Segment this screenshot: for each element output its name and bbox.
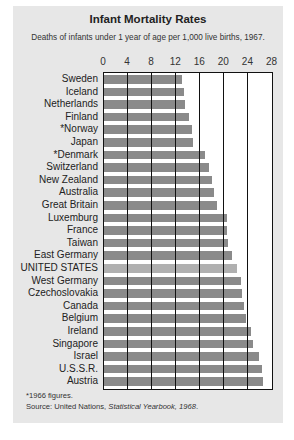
gridline xyxy=(247,73,249,389)
bar xyxy=(104,151,205,160)
gridline xyxy=(175,73,177,389)
category-label: East Germany xyxy=(34,248,98,261)
x-tick-label: 4 xyxy=(124,56,130,67)
category-label: Taiwan xyxy=(67,236,98,249)
category-label: Great Britain xyxy=(42,198,98,211)
category-label: New Zealand xyxy=(39,173,98,186)
category-label: Canada xyxy=(63,299,98,312)
footnote: *1966 figures. xyxy=(26,391,73,400)
category-label: Sweden xyxy=(62,72,98,85)
bar xyxy=(104,138,193,147)
plot-area xyxy=(103,72,273,390)
x-tick-label: 28 xyxy=(266,56,277,67)
category-label: Ireland xyxy=(67,324,98,337)
gridline xyxy=(199,73,201,389)
source-title: Statistical Yearbook, 1968 xyxy=(108,402,196,411)
chart-title: Infant Mortality Rates xyxy=(13,13,283,25)
category-label: *Norway xyxy=(60,122,98,135)
category-label: France xyxy=(67,223,98,236)
category-label: Belgium xyxy=(62,311,98,324)
category-label: Finland xyxy=(65,110,98,123)
category-label: Czechoslovakia xyxy=(28,286,98,299)
bar xyxy=(104,188,214,197)
gridline xyxy=(127,73,129,389)
bar xyxy=(104,176,212,185)
bar xyxy=(104,226,227,235)
bar xyxy=(104,289,242,298)
x-tick-label: 12 xyxy=(170,56,181,67)
bar xyxy=(104,277,241,286)
bar xyxy=(104,239,228,248)
bar xyxy=(104,214,227,223)
category-label: Singapore xyxy=(52,337,98,350)
category-label: Japan xyxy=(71,135,98,148)
category-label: Luxemburg xyxy=(48,211,98,224)
bar xyxy=(104,100,185,109)
category-label: Australia xyxy=(59,185,98,198)
source-prefix: Source: United Nations, xyxy=(26,402,108,411)
x-tick-label: 24 xyxy=(242,56,253,67)
category-label: Israel xyxy=(74,349,98,362)
source-suffix: . xyxy=(196,402,198,411)
x-tick-label: 0 xyxy=(100,56,106,67)
source-note: Source: United Nations, Statistical Year… xyxy=(26,402,198,411)
category-label: Austria xyxy=(67,374,98,387)
bar xyxy=(104,163,209,172)
bar xyxy=(104,264,237,273)
bar xyxy=(104,125,192,134)
category-label: *Denmark xyxy=(54,148,98,161)
gridline xyxy=(151,73,153,389)
bar xyxy=(104,113,189,122)
chart-subtitle: Deaths of infants under 1 year of age pe… xyxy=(13,33,283,42)
gridline xyxy=(223,73,225,389)
category-label: UNITED STATES xyxy=(21,261,98,274)
x-tick-label: 8 xyxy=(148,56,154,67)
category-label: Switzerland xyxy=(46,160,98,173)
x-tick-label: 20 xyxy=(218,56,229,67)
chart-panel: Infant Mortality Rates Deaths of infants… xyxy=(13,6,283,423)
x-tick-label: 16 xyxy=(194,56,205,67)
bar xyxy=(104,88,184,97)
category-label: U.S.S.R. xyxy=(59,362,98,375)
bar xyxy=(104,75,182,84)
category-label: West Germany xyxy=(32,274,99,287)
category-label: Netherlands xyxy=(44,97,98,110)
bar xyxy=(104,251,232,260)
category-label: Iceland xyxy=(66,85,98,98)
